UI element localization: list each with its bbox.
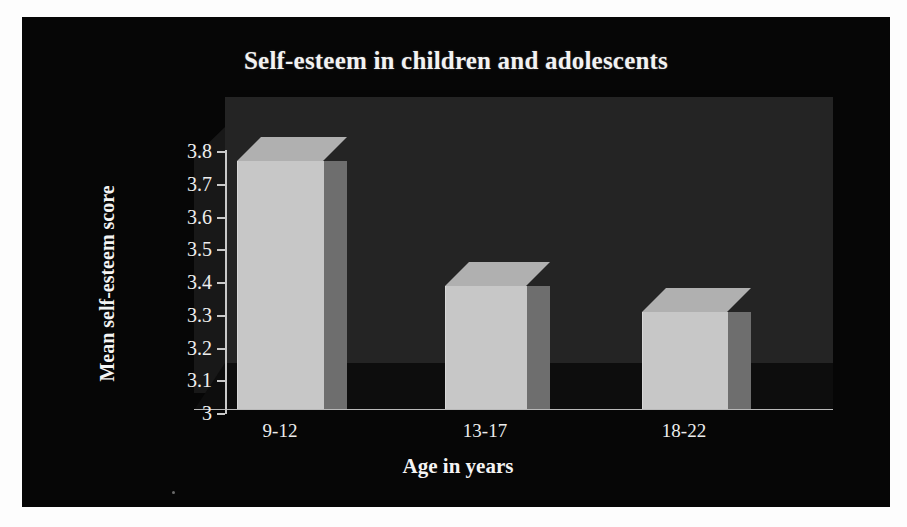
bar-18-22 bbox=[642, 288, 727, 409]
y-tick-label: 3.1 bbox=[138, 370, 212, 390]
y-tick-label: 3.8 bbox=[138, 141, 212, 161]
x-tick-label: 13-17 bbox=[435, 420, 535, 442]
x-tick-label: 18-22 bbox=[634, 420, 734, 442]
y-tick-label: 3.2 bbox=[138, 338, 212, 358]
bar-side-face bbox=[727, 312, 751, 409]
bar-front-face bbox=[445, 286, 527, 409]
y-tick-mark bbox=[217, 413, 225, 415]
bar-13-17 bbox=[445, 262, 526, 409]
bar-side-face bbox=[526, 286, 550, 409]
chart-canvas: Self-esteem in children and adolescents … bbox=[22, 17, 890, 507]
y-tick-mark bbox=[217, 249, 225, 251]
y-tick-mark bbox=[217, 151, 225, 153]
y-tick-mark bbox=[217, 184, 225, 186]
bar-front-face bbox=[642, 312, 728, 409]
y-axis-line bbox=[225, 150, 227, 414]
y-axis-title: Mean self-esteem score bbox=[96, 159, 119, 409]
figure-page: Self-esteem in children and adolescents … bbox=[0, 0, 907, 527]
x-axis-title: Age in years bbox=[198, 454, 718, 479]
y-tick-label: 3.7 bbox=[138, 174, 212, 194]
y-tick-label: 3.6 bbox=[138, 207, 212, 227]
y-tick-mark bbox=[217, 380, 225, 382]
plot-floor-front-edge bbox=[194, 409, 833, 410]
scan-artifact-dot bbox=[172, 491, 175, 494]
bar-9-12 bbox=[237, 137, 323, 409]
y-tick-mark bbox=[217, 315, 225, 317]
y-tick-mark bbox=[217, 282, 225, 284]
y-tick-mark bbox=[217, 348, 225, 350]
y-tick-mark bbox=[217, 217, 225, 219]
y-tick-label: 3.3 bbox=[138, 305, 212, 325]
bar-front-face bbox=[237, 161, 324, 409]
bar-side-face bbox=[323, 161, 347, 409]
x-tick-label: 9-12 bbox=[230, 420, 330, 442]
y-tick-label: 3.4 bbox=[138, 272, 212, 292]
y-tick-label: 3.5 bbox=[138, 239, 212, 259]
x-axis-tick-labels: 9-12 13-17 18-22 bbox=[22, 420, 890, 446]
plot-area: 3.8 3.7 3.6 3.5 3.4 3.3 3.2 3.1 3 Mean s… bbox=[22, 17, 890, 507]
